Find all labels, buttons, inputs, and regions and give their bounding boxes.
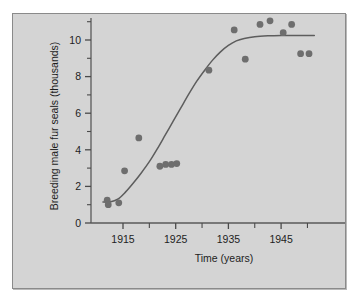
chart-panel (12, 13, 346, 289)
figure-root: 0246810 1915192519351945 Time (years) Br… (0, 0, 359, 302)
